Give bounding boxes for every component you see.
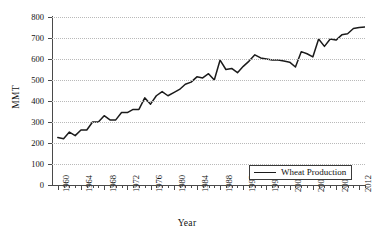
x-axis-tick [249,185,250,188]
y-axis-tick-label: 700 [18,33,44,43]
x-axis-tick [348,185,349,188]
x-axis-tick [127,185,128,190]
x-axis-tick [330,185,331,188]
x-axis-tick [336,185,337,190]
x-axis-tick [75,185,76,188]
x-axis-tick [307,185,308,188]
x-axis-tick [93,185,94,188]
x-axis-tick [162,185,163,188]
gridline [52,38,365,39]
x-axis-tick [145,185,146,188]
x-axis-tick [232,185,233,188]
y-axis-tick-label: 300 [18,117,44,127]
x-axis-tick-label: 1988 [224,175,234,192]
x-axis-tick [237,185,238,188]
x-axis-tick [203,185,204,188]
y-axis-tick-label: 0 [18,180,44,190]
x-axis-tick [365,185,366,188]
x-axis-tick [180,185,181,188]
x-axis-tick [226,185,227,188]
x-axis-tick [255,185,256,188]
x-axis-tick [301,185,302,188]
x-axis-tick [220,185,221,190]
x-axis-tick [116,185,117,188]
gridline [52,101,365,102]
x-axis-tick-label: 1976 [154,175,164,192]
gridline [52,143,365,144]
x-axis-tick [133,185,134,188]
chart-legend[interactable]: Wheat Production [249,165,352,180]
y-axis-tick-label: 800 [18,12,44,22]
legend-label: Wheat Production [281,168,346,177]
chart-container: MMT 0100200300400500600700800 1960196419… [0,0,374,238]
x-axis-tick-label: 1980 [177,175,187,192]
x-axis-tick [214,185,215,188]
gridline [52,122,365,123]
x-axis-tick-label: 2012 [363,175,373,192]
x-axis-tick-label: 1964 [84,175,94,192]
y-axis-tick-label: 600 [18,54,44,64]
y-axis-tick-label: 100 [18,159,44,169]
x-axis-tick [156,185,157,188]
x-axis-tick [266,185,267,190]
y-axis-tick-label: 400 [18,96,44,106]
x-axis-tick [64,185,65,188]
x-axis-tick [168,185,169,188]
x-axis-tick [243,185,244,190]
x-axis-tick-label: 1984 [200,175,210,192]
gridline [52,17,365,18]
gridline [52,59,365,60]
x-axis-tick [197,185,198,190]
x-axis-tick [319,185,320,188]
x-axis-tick [58,185,59,190]
y-axis-tick [48,185,52,186]
x-axis-tick [139,185,140,188]
x-axis-tick [98,185,99,188]
x-axis-tick [290,185,291,190]
x-axis-tick [87,185,88,188]
x-axis-title: Year [0,218,374,228]
x-axis-tick [353,185,354,188]
y-axis-tick-label: 200 [18,138,44,148]
x-axis-tick [261,185,262,188]
x-axis-tick [81,185,82,190]
x-axis-tick [191,185,192,188]
x-axis-tick [122,185,123,188]
x-axis-tick [359,185,360,190]
x-axis-tick [209,185,210,188]
x-axis-tick [342,185,343,188]
x-axis-tick [278,185,279,188]
x-axis-tick [151,185,152,190]
x-axis-tick [185,185,186,188]
x-axis-tick [284,185,285,188]
x-axis-tick [104,185,105,190]
x-axis-tick-label: 1968 [108,175,118,192]
gridline [52,80,365,81]
x-axis-tick-label: 1972 [131,175,141,192]
x-axis-tick [324,185,325,188]
y-axis-tick-label: 500 [18,75,44,85]
x-axis-tick [313,185,314,190]
x-axis-tick [110,185,111,188]
x-axis-tick [174,185,175,190]
x-axis-tick [69,185,70,188]
legend-line-swatch [254,172,276,173]
x-axis-tick [295,185,296,188]
x-axis-tick [272,185,273,188]
x-axis-tick-label: 1960 [61,175,71,192]
